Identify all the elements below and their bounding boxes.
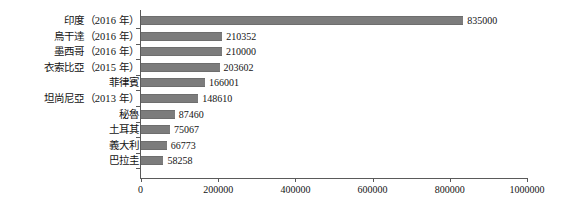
bar	[141, 16, 463, 25]
plot-area: 8350002103522100002036021660011486108746…	[141, 12, 527, 177]
bar-value-label: 835000	[467, 14, 497, 27]
x-axis-tick-label: 0	[138, 184, 143, 196]
bar-value-label: 166001	[209, 76, 239, 89]
x-axis-tick	[450, 178, 451, 182]
bar-value-label: 58258	[167, 154, 192, 167]
bar	[141, 63, 220, 72]
category-label: 衣索比亞（2015 年）	[0, 62, 139, 73]
y-axis-tick	[136, 28, 140, 29]
bar-row: 210352	[141, 32, 527, 41]
bar	[141, 32, 222, 41]
category-label: 巴拉圭	[0, 155, 139, 166]
bar	[141, 78, 205, 87]
bar-row: 210000	[141, 47, 527, 56]
bar-value-label: 210352	[226, 30, 256, 43]
x-axis-tick	[218, 178, 219, 182]
category-label: 烏干達（2016 年）	[0, 31, 139, 42]
bar-value-label: 66773	[171, 139, 196, 152]
y-axis-tick	[136, 137, 140, 138]
x-axis-tick-label: 1000000	[510, 184, 545, 196]
bar-value-label: 75067	[174, 123, 199, 136]
y-axis-tick	[136, 153, 140, 154]
x-axis-line	[140, 178, 528, 179]
category-label: 秘魯	[0, 109, 139, 120]
bar-row: 87460	[141, 110, 527, 119]
category-label: 義大利	[0, 140, 139, 151]
bar	[141, 125, 170, 134]
bar	[141, 141, 167, 150]
bar-row: 148610	[141, 94, 527, 103]
category-label: 印度（2016 年）	[0, 15, 139, 26]
x-axis-tick	[141, 178, 142, 182]
bar-row: 75067	[141, 125, 527, 134]
y-axis-tick	[136, 90, 140, 91]
y-axis-tick	[136, 59, 140, 60]
bar-row: 166001	[141, 78, 527, 87]
bar	[141, 156, 163, 165]
category-axis: 印度（2016 年）烏干達（2016 年）墨西哥（2016 年）衣索比亞（201…	[0, 12, 139, 177]
category-label: 墨西哥（2016 年）	[0, 46, 139, 57]
y-axis-tick	[136, 44, 140, 45]
bar-row: 66773	[141, 141, 527, 150]
y-axis-tick	[136, 106, 140, 107]
x-axis-tick-label: 200000	[203, 184, 233, 196]
x-axis-tick-label: 600000	[358, 184, 388, 196]
y-axis-tick	[136, 122, 140, 123]
bar	[141, 94, 198, 103]
bar-row: 203602	[141, 63, 527, 72]
bar-value-label: 203602	[224, 61, 254, 74]
bar-row: 835000	[141, 16, 527, 25]
x-axis-tick-label: 400000	[280, 184, 310, 196]
bar	[141, 110, 175, 119]
x-axis-tick	[373, 178, 374, 182]
y-axis-tick	[136, 75, 140, 76]
bar-value-label: 87460	[179, 108, 204, 121]
category-label: 土耳其	[0, 124, 139, 135]
y-axis-line	[140, 10, 141, 179]
bar-row: 58258	[141, 156, 527, 165]
x-axis-tick	[295, 178, 296, 182]
bar-chart: 印度（2016 年）烏干達（2016 年）墨西哥（2016 年）衣索比亞（201…	[0, 0, 567, 211]
y-axis-tick	[136, 168, 140, 169]
x-axis-tick	[527, 178, 528, 182]
bar-value-label: 148610	[202, 92, 232, 105]
x-axis-tick-label: 800000	[435, 184, 465, 196]
category-label: 坦尚尼亞（2013 年）	[0, 93, 139, 104]
bar-value-label: 210000	[226, 45, 256, 58]
bar	[141, 47, 222, 56]
category-label: 菲律賓	[0, 77, 139, 88]
